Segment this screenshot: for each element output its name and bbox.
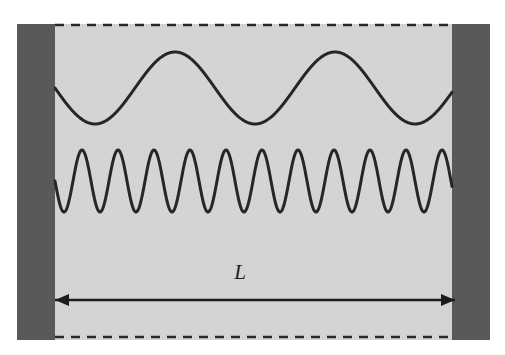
standing-waves-diagram: L [0,0,505,355]
right-wall [452,24,490,340]
figure-container: L [0,0,505,355]
left-wall [17,24,55,340]
box-length-label: L [233,260,246,284]
